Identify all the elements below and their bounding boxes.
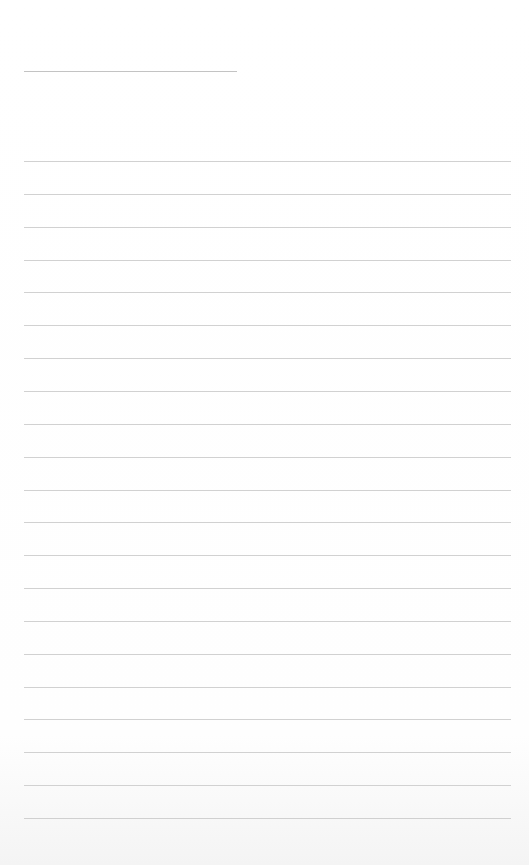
ruled-line	[24, 161, 511, 162]
ruled-line	[24, 555, 511, 556]
ruled-line	[24, 687, 511, 688]
ruled-line	[24, 424, 511, 425]
ruled-line	[24, 227, 511, 228]
ruled-line	[24, 325, 511, 326]
ruled-line	[24, 522, 511, 523]
ruled-line	[24, 490, 511, 491]
ruled-line	[24, 752, 511, 753]
ruled-line	[24, 358, 511, 359]
ruled-line	[24, 818, 511, 819]
ruled-line	[24, 588, 511, 589]
ruled-line	[24, 292, 511, 293]
ruled-line	[24, 391, 511, 392]
ruled-line	[24, 194, 511, 195]
header-rule	[24, 71, 237, 72]
ruled-line	[24, 457, 511, 458]
ruled-line	[24, 719, 511, 720]
ruled-line	[24, 260, 511, 261]
lined-paper-page	[0, 0, 529, 865]
ruled-line	[24, 785, 511, 786]
ruled-line	[24, 654, 511, 655]
ruled-line	[24, 621, 511, 622]
